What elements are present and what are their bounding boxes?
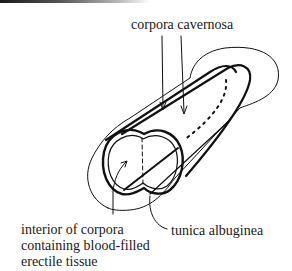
diagram-canvas: corpora cavernosa interior of corpora co… [0, 0, 292, 271]
pointer-tunica [150, 196, 167, 229]
label-interior-line-2: containing blood-filled [21, 238, 150, 254]
pointer-interior [113, 162, 126, 214]
label-tunica-albuginea: tunica albuginea [171, 223, 263, 239]
label-interior-line-1: interior of corpora [21, 222, 124, 238]
pointer-arrow-left [162, 36, 163, 108]
cylinder-mid-line [122, 65, 250, 176]
label-interior-line-3: erectile tissue [21, 254, 98, 270]
dotted-hidden-edge [184, 80, 226, 140]
label-corpora-cavernosa: corpora cavernosa [131, 17, 233, 33]
pointer-arrow-right [181, 36, 184, 112]
